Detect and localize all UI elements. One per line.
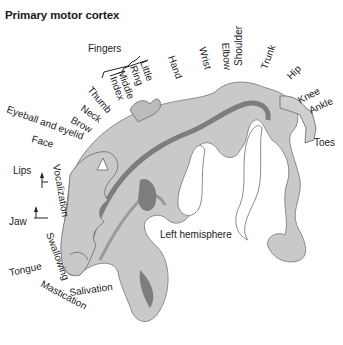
jaw-arrow [34, 206, 48, 218]
label-toes: Toes [314, 137, 335, 148]
label-jaw: Jaw [9, 216, 28, 227]
label-trunk: Trunk [259, 42, 278, 70]
label-shoulder: Shoulder [233, 25, 244, 66]
lips-arrow [40, 172, 48, 188]
label-left-hemisphere: Left hemisphere [160, 229, 232, 240]
label-wrist: Wrist [197, 46, 214, 71]
motor-homunculus-illustration: Fingers Little Ring Middle Index Thumb N… [0, 0, 343, 345]
label-tongue: Tongue [8, 260, 43, 278]
label-elbow: Elbow [220, 42, 233, 71]
label-face: Face [30, 133, 55, 149]
label-hand: Hand [166, 54, 185, 80]
label-lips: Lips [13, 165, 31, 176]
label-salivation: Salivation [69, 281, 113, 298]
label-fingers: Fingers [88, 43, 121, 54]
label-hip: Hip [285, 63, 304, 82]
